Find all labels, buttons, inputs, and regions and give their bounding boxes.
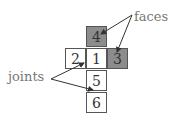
- arrow-joints-2: [51, 79, 93, 90]
- arrow-faces-4: [101, 15, 132, 34]
- arrow-joints-1: [51, 63, 84, 79]
- arrows: [0, 0, 180, 126]
- arrow-faces-3: [117, 15, 132, 52]
